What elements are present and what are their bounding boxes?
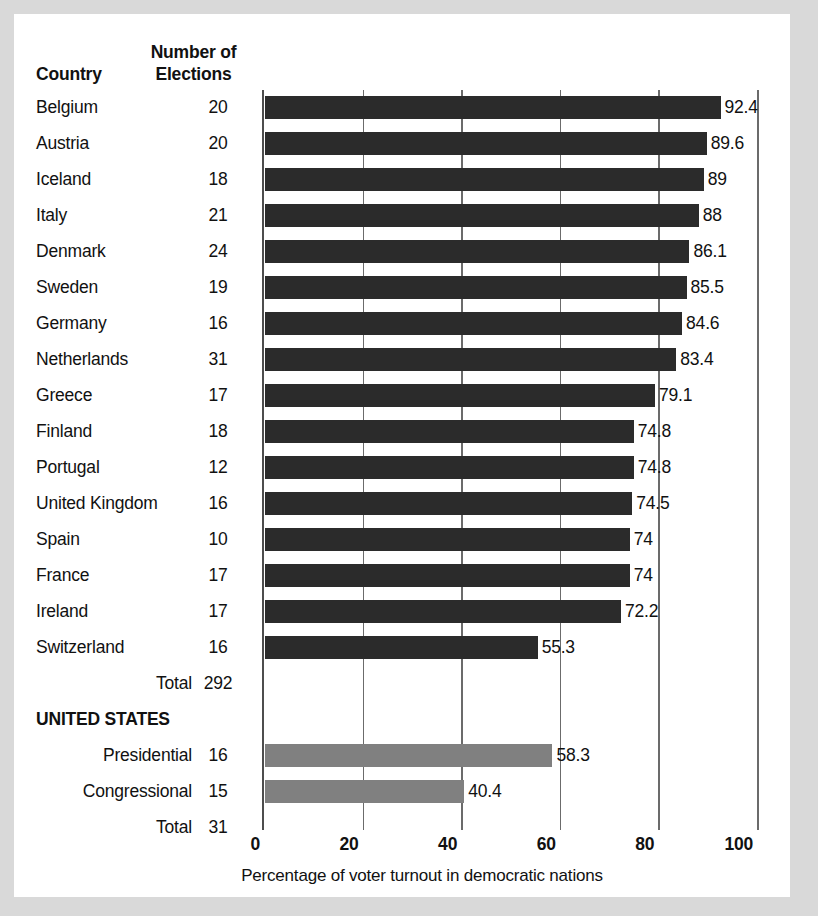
row-elections-count: 10: [192, 526, 244, 552]
row-country-label: Finland: [22, 418, 192, 444]
bar-france: [265, 564, 630, 587]
bar-plot: Percentage of voter turnout in democrati…: [262, 14, 790, 897]
bar-spain: [265, 528, 630, 551]
table-row: Portugal12: [14, 454, 262, 490]
table-row: Greece17: [14, 382, 262, 418]
bar-value-label: 79.1: [659, 384, 692, 407]
bar-value-label: 92.4: [725, 96, 758, 119]
bar-value-label: 72.2: [625, 600, 658, 623]
bar-belgium: [265, 96, 721, 119]
row-elections-count: 15: [192, 778, 244, 804]
row-country-label: Belgium: [22, 94, 192, 120]
bar-value-label: 89.6: [711, 132, 744, 155]
x-tick-label-20: 20: [309, 834, 359, 855]
bar-value-label: 40.4: [468, 780, 501, 803]
row-elections-count: 17: [192, 562, 244, 588]
row-country-label: Ireland: [22, 598, 192, 624]
bar-switzerland: [265, 636, 538, 659]
bar-value-label: 86.1: [693, 240, 726, 263]
bar-value-label: 74.8: [638, 420, 671, 443]
row-elections-count: 12: [192, 454, 244, 480]
row-elections-count: 31: [192, 346, 244, 372]
table-row: Switzerland16: [14, 634, 262, 670]
table-row: Italy21: [14, 202, 262, 238]
column-header-elections-line2: Elections: [141, 64, 246, 85]
table-row: Ireland17: [14, 598, 262, 634]
table-row: UNITED STATES: [14, 706, 262, 742]
bar-value-label: 74.5: [636, 492, 669, 515]
bar-value-label: 74.8: [638, 456, 671, 479]
bar-denmark: [265, 240, 689, 263]
bar-sweden: [265, 276, 687, 299]
bar-value-label: 89: [708, 168, 727, 191]
table-row: United Kingdom16: [14, 490, 262, 526]
row-elections-count: 21: [192, 202, 244, 228]
table-row: Belgium20: [14, 94, 262, 130]
table-row: Iceland18: [14, 166, 262, 202]
table-row: Total292: [14, 670, 262, 706]
row-country-label: Portugal: [22, 454, 192, 480]
table-row: Denmark24: [14, 238, 262, 274]
bar-value-label: 83.4: [680, 348, 713, 371]
table-row: Spain10: [14, 526, 262, 562]
row-country-label: Switzerland: [22, 634, 192, 660]
bar-netherlands: [265, 348, 676, 371]
row-elections-count: 17: [192, 382, 244, 408]
row-country-label: Presidential: [22, 742, 192, 768]
x-tick-label-40: 40: [407, 834, 457, 855]
row-elections-count: 24: [192, 238, 244, 264]
row-country-label: Congressional: [22, 778, 192, 804]
row-country-label: Total: [22, 814, 192, 840]
x-tick-label-80: 80: [604, 834, 654, 855]
row-country-label: Austria: [22, 130, 192, 156]
bar-italy: [265, 204, 699, 227]
bar-germany: [265, 312, 682, 335]
bar-greece: [265, 384, 655, 407]
x-tick-label-100: 100: [703, 834, 753, 855]
row-elections-count: 292: [192, 670, 244, 696]
table-row: France17: [14, 562, 262, 598]
table-row: Austria20: [14, 130, 262, 166]
gridline-100: [757, 90, 759, 830]
row-elections-count: 20: [192, 94, 244, 120]
row-country-label: Sweden: [22, 274, 192, 300]
row-country-label: Denmark: [22, 238, 192, 264]
table-row: Netherlands31: [14, 346, 262, 382]
bar-value-label: 74: [634, 528, 653, 551]
row-country-label: Total: [22, 670, 192, 696]
bar-finland: [265, 420, 634, 443]
row-elections-count: 19: [192, 274, 244, 300]
column-header-elections-line1: Number of: [141, 42, 246, 63]
row-country-label: Iceland: [22, 166, 192, 192]
table-row: Sweden19: [14, 274, 262, 310]
bar-united-kingdom: [265, 492, 632, 515]
y-axis-line: [262, 90, 264, 830]
row-elections-count: 18: [192, 418, 244, 444]
row-country-label: France: [22, 562, 192, 588]
row-country-label: Germany: [22, 310, 192, 336]
row-country-label: UNITED STATES: [22, 706, 192, 732]
bar-value-label: 84.6: [686, 312, 719, 335]
bar-iceland: [265, 168, 704, 191]
bar-value-label: 85.5: [691, 276, 724, 299]
row-elections-count: 16: [192, 634, 244, 660]
x-tick-label-60: 60: [506, 834, 556, 855]
row-elections-count: 16: [192, 490, 244, 516]
table-row: Finland18: [14, 418, 262, 454]
country-table: Country Number of Elections Belgium20Aus…: [14, 14, 262, 897]
table-row: Germany16: [14, 310, 262, 346]
row-elections-count: 20: [192, 130, 244, 156]
row-country-label: Netherlands: [22, 346, 192, 372]
bar-value-label: 55.3: [542, 636, 575, 659]
row-country-label: United Kingdom: [22, 490, 192, 516]
bar-value-label: 58.3: [556, 744, 589, 767]
table-row: Presidential16: [14, 742, 262, 778]
bar-value-label: 74: [634, 564, 653, 587]
table-row: Congressional15: [14, 778, 262, 814]
chart-figure: Country Number of Elections Belgium20Aus…: [14, 14, 790, 897]
row-elections-count: 16: [192, 742, 244, 768]
bar-presidential: [265, 744, 552, 767]
bar-ireland: [265, 600, 621, 623]
bar-congressional: [265, 780, 464, 803]
x-tick-label-0: 0: [210, 834, 260, 855]
